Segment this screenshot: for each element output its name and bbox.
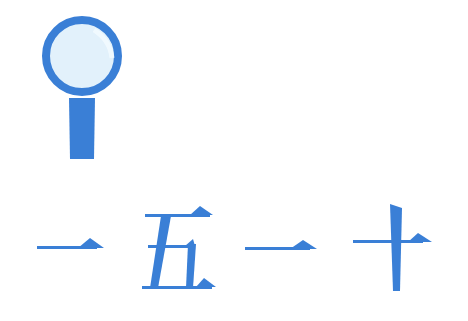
chinese-phrase: 一五一十	[0, 196, 468, 296]
character-yi-2	[245, 240, 317, 250]
character-wu	[142, 206, 216, 289]
magnifying-glass-icon	[36, 14, 128, 162]
character-yi-1	[37, 238, 104, 249]
character-shi	[353, 204, 432, 291]
